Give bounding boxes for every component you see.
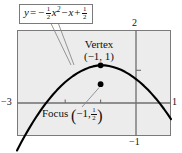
- focus-label-title: Focus: [42, 107, 68, 119]
- focus-leader-line: [82, 88, 99, 108]
- x-axis-label-right: 1: [172, 96, 177, 107]
- focus-point: [98, 81, 104, 87]
- equation-plus-sign: +: [73, 6, 81, 18]
- y-axis-label-top: 2: [132, 17, 137, 28]
- equation-minus-sign: −: [37, 6, 45, 18]
- y-axis-label-bottom: −1: [129, 136, 140, 147]
- equation-equals: =: [29, 6, 37, 18]
- equation-coefficient-denominator: 2: [46, 14, 51, 21]
- equation-constant-fraction: 12: [82, 6, 87, 21]
- equation-coefficient-fraction: 12: [46, 6, 51, 21]
- vertex-point: [98, 62, 104, 68]
- parabola-figure: y=−12x2−x+12 Vertex (−1, 1) Focus (−1,12…: [0, 0, 182, 153]
- focus-label-x: −1,: [76, 107, 90, 119]
- focus-close-paren: ): [97, 107, 102, 124]
- equation-callout: y=−12x2−x+12: [19, 4, 93, 24]
- vertex-label: Vertex (−1, 1): [84, 39, 114, 62]
- equation-constant-denominator: 2: [82, 14, 87, 21]
- vertex-label-coords: (−1, 1): [84, 51, 114, 63]
- vertex-label-title: Vertex: [85, 38, 114, 50]
- focus-label-y-fraction: 12: [91, 107, 96, 122]
- focus-y-denominator: 2: [91, 115, 96, 122]
- focus-label: Focus (−1,12): [42, 107, 103, 122]
- x-axis-label-left: −3: [1, 96, 12, 107]
